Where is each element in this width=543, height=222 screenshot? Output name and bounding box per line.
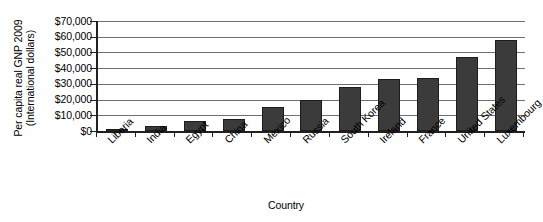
- y-axis-tick-label: $50,000: [55, 47, 92, 58]
- bar-slot: [98, 21, 137, 131]
- plot-area: [96, 21, 525, 133]
- y-axis-tick-label: $10,000: [55, 110, 92, 121]
- y-axis-tick-label: $30,000: [55, 78, 92, 89]
- bar-slot: [409, 21, 448, 131]
- x-axis-title: Country: [0, 199, 538, 211]
- y-axis-tick-label: $40,000: [55, 63, 92, 74]
- bar-slot: [253, 21, 292, 131]
- y-axis-tick-label: $60,000: [55, 31, 92, 42]
- y-axis-tick-labels: $0$10,000$20,000$30,000$40,000$50,000$60…: [46, 15, 94, 139]
- bar-slot: [137, 21, 176, 131]
- y-axis-tick-label: $20,000: [55, 94, 92, 105]
- y-axis-title: Per capita real GNP 2009 (International …: [6, 3, 42, 153]
- bars-container: [98, 21, 525, 131]
- bar-slot: [214, 21, 253, 131]
- y-axis-title-line-2: (International dollars): [24, 30, 37, 126]
- bar-slot: [176, 21, 215, 131]
- bar-slot: [292, 21, 331, 131]
- y-axis-tick-label: $70,000: [55, 16, 92, 27]
- y-axis-title-line-1: Per capita real GNP 2009: [12, 19, 25, 136]
- x-axis-title-text: Country: [234, 199, 304, 211]
- x-axis-category-labels: LiberiaIndiaEgyptChinaMexicoRussiaSouth …: [96, 137, 525, 193]
